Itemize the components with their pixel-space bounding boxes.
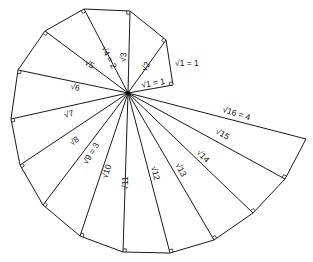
label-hyp16: √16 = 4	[221, 104, 251, 122]
spoke-8	[20, 93, 128, 165]
edge-2	[130, 11, 166, 40]
spoke-9	[43, 93, 128, 205]
label-hyp15: √15	[214, 126, 231, 142]
edge-4	[45, 9, 84, 31]
edge-15	[285, 139, 306, 179]
label-hyp10: √10	[99, 163, 113, 180]
edge-11	[123, 252, 170, 253]
spoke-3	[128, 11, 130, 93]
spoke-12	[128, 93, 170, 253]
edge-14	[253, 179, 285, 213]
edge-5	[18, 31, 45, 70]
edge-13	[214, 213, 253, 240]
spiral-of-theodorus-diagram: √1 = 1 √1 = 1 √2 √3 √4 = 2 √5 √6 √7 √8 √…	[0, 0, 313, 262]
right-angle-mark-14	[251, 208, 256, 210]
edge-10	[80, 236, 123, 252]
label-hyp11: √11	[120, 176, 130, 190]
label-hyp7: √7	[63, 108, 75, 120]
spoke-13	[128, 93, 214, 240]
label-hyp14: √14	[195, 147, 212, 164]
label-hyp3: √3	[118, 52, 128, 62]
label-hyp9: √9 = 3	[80, 140, 101, 166]
label-hyp1: √1 = 1	[141, 76, 166, 90]
edge-12	[170, 240, 214, 253]
label-hyp13: √13	[173, 161, 189, 178]
edge-6	[11, 70, 18, 119]
edge-1	[166, 40, 173, 85]
outer-edges	[11, 9, 306, 253]
edge-7	[11, 119, 20, 165]
edge-8	[20, 165, 43, 205]
label-hyp4: √4 = 2	[99, 44, 119, 70]
center-point	[126, 91, 130, 95]
edge-3	[84, 9, 130, 11]
label-hyp5: √5	[83, 57, 96, 71]
label-hyp6: √6	[70, 81, 82, 93]
spoke-11	[123, 93, 128, 252]
label-hyp8: √8	[67, 134, 81, 148]
label-outer-leg: √1 = 1	[175, 58, 199, 68]
edge-9	[43, 205, 80, 236]
right-angle-marks	[12, 11, 287, 253]
hypotenuse-spokes	[11, 9, 306, 253]
